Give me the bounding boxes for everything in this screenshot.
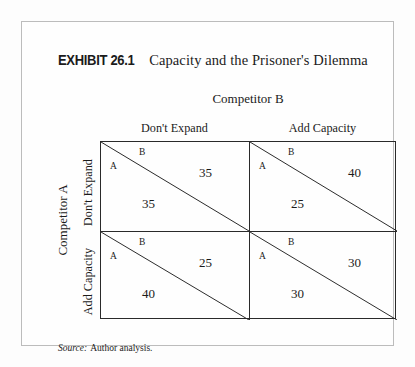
exhibit-number: EXHIBIT 26.1 bbox=[58, 52, 134, 68]
diagonal-divider-icon bbox=[250, 142, 397, 231]
row-axis-title: Competitor A bbox=[55, 130, 71, 310]
payoff-value-b: 40 bbox=[348, 165, 361, 181]
player-b-marker: B bbox=[139, 147, 145, 157]
diagonal-divider-icon bbox=[250, 232, 397, 320]
payoff-cell: A B 35 35 bbox=[101, 142, 249, 231]
payoff-matrix: A B 35 35 A B 40 25 A B 25 bbox=[100, 141, 396, 319]
payoff-value-b: 25 bbox=[199, 255, 212, 271]
payoff-value-a: 25 bbox=[291, 196, 304, 212]
player-a-marker: A bbox=[110, 161, 117, 171]
payoff-value-b: 35 bbox=[199, 165, 212, 181]
column-header-dont-expand: Don't Expand bbox=[100, 121, 249, 136]
column-axis-title: Competitor B bbox=[100, 91, 396, 107]
payoff-value-a: 40 bbox=[142, 286, 155, 302]
payoff-value-a: 35 bbox=[142, 196, 155, 212]
player-b-marker: B bbox=[139, 237, 145, 247]
player-b-marker: B bbox=[288, 237, 294, 247]
source-label: Source: bbox=[58, 343, 87, 353]
source-note: Source:Author analysis. bbox=[58, 343, 152, 353]
player-a-marker: A bbox=[259, 161, 266, 171]
player-b-marker: B bbox=[288, 147, 294, 157]
payoff-cell: A B 30 30 bbox=[249, 231, 397, 320]
column-header-add-capacity: Add Capacity bbox=[249, 121, 396, 136]
payoff-cell: A B 40 25 bbox=[249, 142, 397, 231]
row-header-dont-expand: Don't Expand bbox=[81, 148, 96, 238]
row-header-add-capacity: Add Capacity bbox=[81, 237, 96, 327]
source-text: Author analysis. bbox=[90, 343, 152, 353]
player-a-marker: A bbox=[259, 251, 266, 261]
exhibit-title-line: EXHIBIT 26.1Capacity and the Prisoner's … bbox=[58, 52, 368, 69]
payoff-cell: A B 25 40 bbox=[101, 231, 249, 320]
player-a-marker: A bbox=[110, 251, 117, 261]
page-title: Capacity and the Prisoner's Dilemma bbox=[149, 52, 368, 68]
diagonal-divider-icon bbox=[101, 142, 249, 231]
exhibit-frame: EXHIBIT 26.1Capacity and the Prisoner's … bbox=[21, 21, 394, 346]
payoff-value-a: 30 bbox=[291, 286, 304, 302]
diagonal-divider-icon bbox=[101, 232, 249, 320]
payoff-value-b: 30 bbox=[348, 255, 361, 271]
exhibit-page: EXHIBIT 26.1Capacity and the Prisoner's … bbox=[0, 0, 415, 367]
